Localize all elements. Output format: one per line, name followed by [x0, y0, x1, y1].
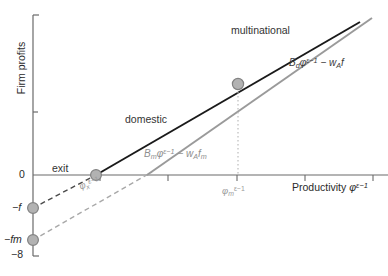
- domestic-line: [96, 22, 360, 175]
- y-tick-label-minus-8: −8: [11, 249, 23, 260]
- y-tick-label-minus-f: −f: [12, 202, 21, 213]
- x-tick-label-mne-cutoff: φmε−1: [222, 186, 245, 198]
- x-axis-title: Productivity φε−1: [292, 182, 368, 193]
- domestic-intercept-marker: [28, 203, 39, 214]
- mne-cutoff-sup: ε−1: [234, 185, 245, 192]
- exit-cutoff-sup: ε−1: [87, 175, 99, 185]
- y-tick-label-minus-fm: −fm: [4, 234, 22, 245]
- equation-mne-b: B: [144, 148, 151, 159]
- mne-intercept-marker: [28, 235, 39, 246]
- annotation-domestic: domestic: [125, 114, 167, 125]
- equation-domestic-f: f: [341, 57, 344, 68]
- chart-figure: Firm profits 0 −f −fm −8 Productivity φε…: [0, 0, 388, 276]
- equation-domestic-b: B: [289, 57, 296, 68]
- equation-mne-sup: ε−1: [163, 147, 174, 156]
- y-tick-label-zero: 0: [19, 169, 25, 180]
- mne-cutoff-marker: [232, 78, 243, 89]
- x-axis-title-main: Productivity: [292, 181, 346, 193]
- y-axis-title: Firm profits: [15, 18, 27, 118]
- annotation-exit: exit: [52, 163, 68, 174]
- equation-domestic-sup: ε−1: [306, 56, 317, 65]
- equation-mne-f-sub: m: [201, 152, 207, 161]
- equation-multinational: Bmφε−1 − wAfm: [144, 148, 207, 160]
- x-axis-title-exponent: ε−1: [356, 181, 368, 190]
- annotation-multinational: multinational: [231, 25, 290, 36]
- equation-domestic: Bdφε−1 − wAf: [289, 57, 344, 69]
- chart-plot-area: [0, 0, 388, 276]
